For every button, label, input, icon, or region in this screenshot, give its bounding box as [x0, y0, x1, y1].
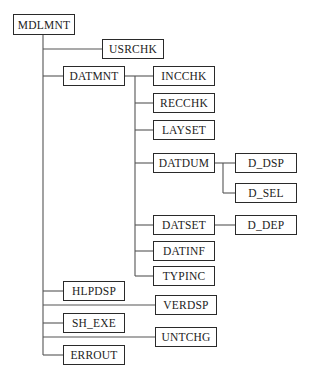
node-datinf: DATINF	[153, 241, 215, 261]
node-datset: DATSET	[153, 215, 215, 235]
node-recchk: RECCHK	[153, 93, 215, 113]
node-label: USRCHK	[109, 43, 157, 55]
node-label: D_DSP	[248, 157, 284, 169]
node-label: ERROUT	[70, 349, 117, 361]
node-label: TYPINC	[163, 270, 206, 282]
node-incchk: INCCHK	[153, 66, 215, 86]
node-layset: LAYSET	[153, 120, 215, 140]
node-label: RECCHK	[160, 97, 208, 109]
node-datmnt: DATMNT	[63, 66, 125, 86]
node-sh-exe: SH_EXE	[63, 313, 125, 333]
node-label: MDLMNT	[18, 19, 70, 31]
node-label: DATSET	[162, 219, 206, 231]
node-hlpdsp: HLPDSP	[63, 281, 125, 301]
node-mdlmnt: MDLMNT	[13, 14, 75, 35]
node-label: D_SEL	[248, 187, 284, 199]
node-label: VERDSP	[163, 299, 208, 311]
node-label: INCCHK	[161, 70, 206, 82]
node-verdsp: VERDSP	[155, 295, 217, 315]
node-label: DATMNT	[69, 70, 118, 82]
node-label: LAYSET	[162, 124, 206, 136]
node-label: HLPDSP	[72, 285, 116, 297]
node-d-sel: D_SEL	[235, 183, 297, 203]
node-typinc: TYPINC	[153, 266, 215, 286]
node-untchg: UNTCHG	[155, 327, 217, 347]
node-label: DATDUM	[159, 157, 209, 169]
node-d-dep: D_DEP	[235, 215, 297, 235]
node-label: DATINF	[163, 245, 205, 257]
node-datdum: DATDUM	[153, 153, 215, 173]
node-label: SH_EXE	[72, 317, 116, 329]
node-label: D_DEP	[248, 219, 285, 231]
node-errout: ERROUT	[63, 345, 125, 365]
node-usrchk: USRCHK	[102, 39, 164, 59]
node-d-dsp: D_DSP	[235, 153, 297, 173]
node-label: UNTCHG	[161, 331, 210, 343]
